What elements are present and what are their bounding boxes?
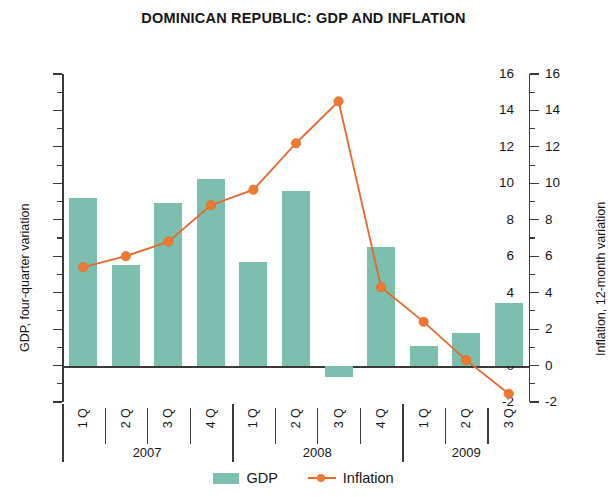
x-axis: 1 Q2 Q3 Q4 Q20071 Q2 Q3 Q4 Q20081 Q2 Q3 …	[62, 402, 530, 462]
y-axis-right-title: Inflation, 12-month variation	[594, 202, 608, 356]
inflation-data-point	[504, 389, 513, 398]
y-tick-right	[530, 183, 539, 184]
x-tick-label-quarter: 3 Q	[162, 401, 175, 435]
y-tick-left	[53, 73, 62, 74]
y-tick-right	[530, 219, 539, 220]
y-minor-tick-right	[530, 274, 535, 275]
y-tick-left	[53, 146, 62, 147]
y-minor-tick-right	[530, 165, 535, 166]
legend-item-inflation[interactable]: Inflation	[308, 470, 394, 486]
y-axis-left-title: GDP, four-quarter variation	[18, 204, 32, 352]
legend-label-inflation: Inflation	[343, 470, 394, 486]
y-tick-right	[530, 401, 539, 402]
y-tick-left	[53, 329, 62, 330]
x-axis-quarter-separator	[275, 408, 276, 444]
inflation-markers	[79, 97, 514, 399]
chart-title: DOMINICAN REPUBLIC: GDP AND INFLATION	[0, 10, 607, 26]
y-minor-tick-right	[530, 383, 535, 384]
y-tick-left	[53, 183, 62, 184]
y-tick-label-right: -2	[545, 395, 585, 409]
y-tick-label-right: 14	[545, 103, 585, 117]
y-tick-label-right: 0	[545, 359, 585, 373]
x-tick-label-quarter: 2 Q	[120, 401, 133, 435]
x-tick-label-quarter: 3 Q	[502, 401, 515, 435]
y-tick-left	[53, 256, 62, 257]
y-minor-tick-right	[530, 310, 535, 311]
y-minor-tick-right	[530, 128, 535, 129]
inflation-data-point	[206, 201, 215, 210]
x-tick-label-quarter: 2 Q	[460, 401, 473, 435]
x-axis-quarter-separator	[487, 408, 488, 444]
inflation-data-point	[462, 355, 471, 364]
inflation-data-point	[376, 283, 385, 292]
x-axis-year-label: 2008	[232, 446, 402, 459]
x-axis-year-label: 2009	[402, 446, 530, 459]
y-tick-label-right: 2	[545, 322, 585, 336]
x-tick-label-quarter: 3 Q	[332, 401, 345, 435]
x-tick-label-quarter: 1 Q	[77, 401, 90, 435]
x-axis-quarter-separator	[445, 408, 446, 444]
y-tick-label-right: 12	[545, 140, 585, 154]
x-tick-label-quarter: 2 Q	[290, 401, 303, 435]
inflation-data-point	[249, 185, 258, 194]
plot-area: -20246810121416 -20246810121416	[62, 74, 530, 402]
chart-legend: GDP Inflation	[0, 470, 607, 486]
y-tick-left	[53, 292, 62, 293]
y-tick-right	[530, 329, 539, 330]
x-tick-label-quarter: 1 Q	[247, 401, 260, 435]
y-tick-right	[530, 365, 539, 366]
inflation-data-point	[291, 139, 300, 148]
x-tick-label-quarter: 4 Q	[205, 401, 218, 435]
y-tick-right	[530, 292, 539, 293]
y-tick-left	[53, 219, 62, 220]
inflation-data-point	[121, 252, 130, 261]
x-axis-quarter-separator	[105, 408, 106, 444]
x-axis-quarter-separator	[317, 408, 318, 444]
y-tick-right	[530, 146, 539, 147]
y-minor-tick-right	[530, 201, 535, 202]
x-axis-quarter-separator	[147, 408, 148, 444]
y-tick-left	[53, 401, 62, 402]
y-tick-right	[530, 256, 539, 257]
gdp-swatch-icon	[213, 473, 239, 484]
legend-item-gdp[interactable]: GDP	[213, 470, 277, 486]
y-tick-right	[530, 110, 539, 111]
y-minor-tick-right	[530, 347, 535, 348]
legend-label-gdp: GDP	[246, 470, 277, 486]
inflation-data-point	[334, 97, 343, 106]
x-axis-quarter-separator	[360, 408, 361, 444]
y-tick-label-right: 10	[545, 176, 585, 190]
x-axis-left-boundary	[62, 404, 64, 462]
y-tick-right	[530, 73, 539, 74]
y-tick-label-right: 16	[545, 67, 585, 81]
inflation-line-series	[62, 74, 530, 402]
x-tick-label-quarter: 4 Q	[375, 401, 388, 435]
y-tick-label-right: 6	[545, 249, 585, 263]
y-tick-left	[53, 110, 62, 111]
x-axis-year-label: 2007	[62, 446, 232, 459]
y-tick-label-right: 8	[545, 213, 585, 227]
y-tick-label-right: 4	[545, 286, 585, 300]
inflation-swatch-icon	[308, 472, 336, 484]
inflation-data-point	[79, 263, 88, 272]
inflation-data-point	[164, 237, 173, 246]
y-minor-tick-right	[530, 237, 535, 238]
x-tick-label-quarter: 1 Q	[417, 401, 430, 435]
x-axis-quarter-separator	[190, 408, 191, 444]
y-tick-left	[53, 365, 62, 366]
y-minor-tick-right	[530, 92, 535, 93]
inflation-data-point	[419, 317, 428, 326]
